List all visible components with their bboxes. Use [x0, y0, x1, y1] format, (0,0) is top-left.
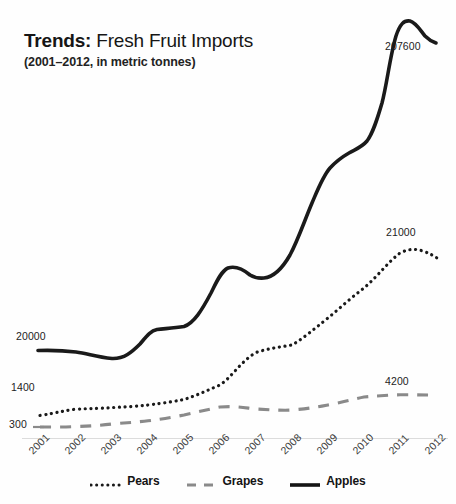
- series-line-grapes: [40, 395, 436, 427]
- legend-item-pears[interactable]: Pears: [90, 474, 159, 488]
- apples-end-value-label: 207600: [385, 40, 421, 52]
- legend-item-grapes[interactable]: Grapes: [186, 474, 264, 488]
- grapes-end-value-label: 4200: [385, 375, 409, 387]
- series-line-pears: [40, 249, 437, 415]
- plot-area: [0, 0, 456, 504]
- legend-swatch-apples-solid-icon: [289, 476, 321, 486]
- pears-end-value-label: 21000: [386, 226, 416, 238]
- chart-legend: Pears Grapes Apples: [0, 474, 456, 488]
- legend-item-apples[interactable]: Apples: [289, 474, 365, 488]
- apples-start-value-label: 20000: [16, 330, 46, 342]
- grapes-start-value-label: 300: [9, 418, 27, 430]
- legend-label-grapes: Grapes: [223, 474, 264, 488]
- legend-label-apples: Apples: [326, 474, 365, 488]
- pears-start-value-label: 1400: [11, 381, 35, 393]
- chart-container: Trends: Fresh Fruit Imports (2001–2012, …: [0, 0, 456, 504]
- legend-swatch-grapes-dashed-icon: [186, 476, 218, 486]
- legend-swatch-pears-dotted-icon: [90, 476, 122, 486]
- series-line-apples: [38, 21, 436, 359]
- legend-label-pears: Pears: [127, 474, 159, 488]
